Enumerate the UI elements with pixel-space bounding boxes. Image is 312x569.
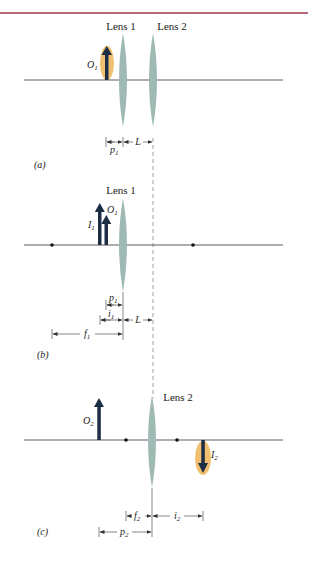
dimension-f2-label: f2 (134, 510, 141, 523)
dimension-l-label: L (134, 136, 141, 147)
panel-b-caption: (b) (37, 349, 49, 361)
object-o1-label: O1 (87, 59, 98, 72)
object-o1-label: O1 (107, 204, 118, 217)
lens-1-label: Lens 1 (106, 184, 136, 196)
image-i1-label: I1 (87, 219, 95, 232)
lens-1-label: Lens 1 (106, 20, 136, 32)
panel-c: Lens 2 O2 I2 f2 i2 (24, 391, 283, 539)
image-i2-label: I2 (210, 449, 218, 462)
panel-c-caption: (c) (37, 526, 49, 538)
lens-2-label: Lens 2 (163, 391, 193, 403)
dimension-p1-label: p1 (109, 144, 119, 157)
lens-1 (119, 198, 127, 292)
focal-point-left (124, 438, 128, 442)
focal-point-right (191, 243, 195, 247)
panel-a: Lens 1 Lens 2 O1 p1 L (a) (24, 20, 283, 171)
dimension-i2-label: i2 (174, 510, 181, 523)
object-o2-arrow (94, 398, 104, 440)
two-lens-diagram: Lens 1 Lens 2 O1 p1 L (a) Lens 1 (0, 0, 312, 569)
dimension-f1-label: f1 (84, 328, 90, 341)
dimension-p1-label: p1 (108, 292, 118, 305)
lens-2 (149, 33, 157, 127)
lens-1 (119, 33, 127, 127)
lens-2-label: Lens 2 (157, 20, 187, 32)
object-o1-arrow (101, 215, 111, 245)
focal-point-right (175, 438, 179, 442)
dimension-p2-label: p2 (119, 526, 129, 539)
focal-point-left (50, 243, 54, 247)
object-o2-label: O2 (83, 415, 94, 428)
dimension-l-label: L (134, 314, 141, 325)
dimension-i1-label: i1 (108, 308, 114, 321)
panel-a-caption: (a) (34, 159, 46, 171)
lens-2 (148, 395, 156, 488)
panel-b: Lens 1 O1 I1 p1 i1 (24, 184, 283, 361)
